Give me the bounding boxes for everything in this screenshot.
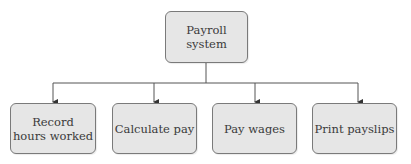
child-node-label: Print payslips [315, 122, 395, 136]
child-node-print-payslips: Print payslips [312, 103, 397, 154]
child-node-calculate-pay: Calculate pay [112, 103, 197, 154]
child-node-pay-wages: Pay wages [212, 103, 297, 154]
root-node-label: Payroll system [186, 23, 227, 51]
child-node-record-hours: Record hours worked [10, 103, 96, 154]
child-node-label: Calculate pay [115, 122, 195, 136]
child-node-label: Pay wages [224, 122, 285, 136]
root-node-payroll-system: Payroll system [165, 11, 248, 63]
child-node-label: Record hours worked [13, 115, 93, 143]
